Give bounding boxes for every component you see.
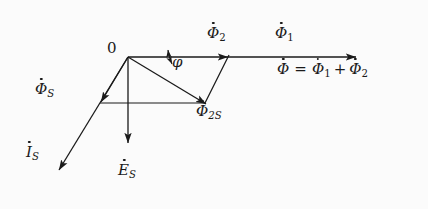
equation-term1-subscript: 1 <box>324 68 330 79</box>
label-phi-2s: Φ2S <box>196 104 222 121</box>
parallelogram-side-construction <box>205 55 229 103</box>
label-phi-1: Φ1 <box>275 26 294 43</box>
label-phi-2-symbol: Φ <box>207 26 219 41</box>
equation-equals: = <box>294 60 307 78</box>
label-phi-s-subscript: S <box>47 88 54 99</box>
label-phi-2s-symbol: Φ <box>196 104 208 119</box>
equation-total-flux: Φ=Φ1+Φ2 <box>277 62 368 79</box>
label-phi-1-subscript: 1 <box>287 32 293 43</box>
label-e-s-symbol: E <box>118 163 129 178</box>
label-e-s-subscript: S <box>129 169 136 180</box>
label-phi-1-symbol: Φ <box>275 26 287 41</box>
label-i-s-subscript: S <box>32 151 39 162</box>
phasor-diagram-figure: 0 φ Φ2 Φ1 Φ=Φ1+Φ2 ΦS Φ2S IS ES <box>0 0 428 209</box>
label-phi-2s-subscript: 2S <box>208 110 221 121</box>
label-i-s: IS <box>26 145 39 162</box>
equation-plus: + <box>334 60 347 78</box>
vector-phi-2s <box>128 57 206 104</box>
label-phi-s: ΦS <box>35 82 54 99</box>
origin-label: 0 <box>107 41 117 56</box>
label-e-s: ES <box>118 163 136 180</box>
label-phi-2: Φ2 <box>207 26 226 43</box>
label-phi-s-symbol: Φ <box>35 82 47 97</box>
equation-lhs: Φ <box>277 62 289 77</box>
equation-term2-subscript: 2 <box>362 68 368 79</box>
angle-label-phi: φ <box>172 55 183 70</box>
equation-term1: Φ <box>312 62 324 77</box>
label-phi-2-subscript: 2 <box>219 32 225 43</box>
equation-term2: Φ <box>349 62 361 77</box>
label-i-s-symbol: I <box>26 145 32 160</box>
vector-phi-s <box>101 57 128 102</box>
